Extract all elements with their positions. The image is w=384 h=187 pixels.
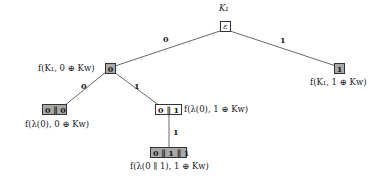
node-1: 1: [334, 63, 345, 74]
root-node: ε: [220, 21, 231, 32]
edge-label-root-1: 1: [280, 36, 286, 44]
node-1-label: f(K₁, 1 ⊕ Kw): [310, 77, 367, 87]
node-0-1: 0 ∥ 1: [155, 104, 182, 115]
edge-label-root-0: 0: [163, 35, 169, 43]
node-0-label: f(K₁, 0 ⊕ Kw): [38, 63, 95, 73]
root-key-label: K₁: [219, 3, 229, 13]
node-0-1-1-label: f(λ(0 ∥ 1), 1 ⊕ Kw): [130, 161, 209, 171]
node-0: 0: [105, 63, 116, 74]
edge-label-0-01: 1: [134, 82, 140, 90]
edge-label-01-011: 1: [173, 128, 179, 136]
node-0-1-label: f(λ(0), 1 ⊕ Kw): [184, 104, 248, 114]
node-0-1-1: 0 ∥ 1 ∥ 1: [150, 147, 187, 158]
node-0-0: 0 ∥ 0: [42, 104, 67, 115]
node-0-0-label: f(λ(0), 0 ⊕ Kw): [25, 119, 89, 129]
tree-edges: [0, 0, 384, 187]
edge-label-0-00: 0: [81, 82, 87, 90]
